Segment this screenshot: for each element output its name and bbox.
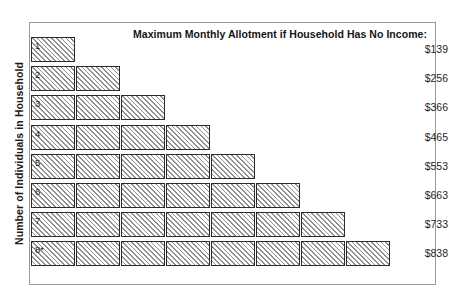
allotment-unit-box: 3 [31,95,75,120]
row-category-label: 3 [35,98,40,109]
chart-row: 7$733 [31,212,434,237]
allotment-unit-box [256,241,300,266]
row-value-label: $139 [402,37,448,62]
allotment-unit-box [76,183,120,208]
row-category-label: 5 [35,157,40,168]
allotment-unit-box: 5 [31,154,75,179]
allotment-unit-box [166,241,210,266]
allotment-pictogram-chart: Number of Individuals in Household Maxim… [0,0,449,297]
row-value-label: $663 [402,183,448,208]
row-value-label: $366 [402,95,448,120]
allotment-unit-box [76,125,120,150]
allotment-unit-box [76,212,120,237]
chart-rows-container: 1$1392$2563$3664$4655$5536$6637$7338*$83… [31,37,434,283]
row-value-label: $838 [402,241,448,266]
allotment-unit-box [166,125,210,150]
row-value-label: $465 [402,125,448,150]
chart-row: 2$256 [31,66,434,91]
row-value-label: $256 [402,66,448,91]
allotment-unit-box [121,154,165,179]
allotment-unit-box [76,95,120,120]
chart-row: 3$366 [31,95,434,120]
allotment-unit-box [121,125,165,150]
chart-row: 8*$838 [31,241,434,266]
chart-frame: Maximum Monthly Allotment if Household H… [29,22,436,285]
allotment-unit-box [76,66,120,91]
allotment-unit-box [256,183,300,208]
chart-row: 6$663 [31,183,434,208]
allotment-unit-box: 8* [31,241,75,266]
chart-row: 5$553 [31,154,434,179]
allotment-unit-box [166,183,210,208]
allotment-unit-box [76,241,120,266]
y-axis-label: Number of Individuals in Household [8,22,30,285]
allotment-unit-box: 4 [31,125,75,150]
allotment-unit-box: 2 [31,66,75,91]
row-value-label: $553 [402,154,448,179]
allotment-unit-box [211,241,255,266]
row-category-label: 1 [35,40,40,51]
allotment-unit-box: 6 [31,183,75,208]
allotment-unit-box: 1 [31,37,75,62]
row-category-label: 8* [35,244,44,255]
allotment-unit-box [346,241,390,266]
allotment-unit-box [166,154,210,179]
allotment-unit-box: 7 [31,212,75,237]
allotment-unit-box [76,154,120,179]
row-value-label: $733 [402,212,448,237]
allotment-unit-box [211,183,255,208]
allotment-unit-box [166,212,210,237]
allotment-unit-box [121,212,165,237]
allotment-unit-box [121,241,165,266]
row-category-label: 2 [35,69,40,80]
allotment-unit-box [301,212,345,237]
row-category-label: 7 [35,215,40,226]
allotment-unit-box [121,183,165,208]
chart-row: 4$465 [31,125,434,150]
allotment-unit-box [301,241,345,266]
allotment-unit-box [256,212,300,237]
row-category-label: 6 [35,186,40,197]
chart-row: 1$139 [31,37,434,62]
allotment-unit-box [211,154,255,179]
allotment-unit-box [121,95,165,120]
row-category-label: 4 [35,128,40,139]
allotment-unit-box [211,212,255,237]
